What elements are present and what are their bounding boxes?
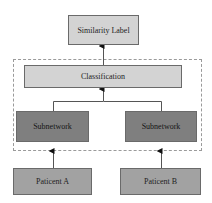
subnetwork-left-node: Subnetwork	[16, 111, 89, 142]
subnetwork-left-text: Subnetwork	[33, 122, 72, 131]
classification-node: Classification	[24, 65, 182, 88]
similarity-label-node: Similarity Label	[68, 15, 139, 45]
patient-b-node: Paticent B	[120, 168, 201, 195]
patient-a-text: Paticent A	[36, 177, 69, 186]
subnetwork-right-node: Subnetwork	[125, 111, 197, 142]
connector-left	[54, 102, 104, 112]
similarity-label-text: Similarity Label	[77, 26, 129, 35]
patient-a-node: Paticent A	[13, 168, 92, 195]
classification-text: Classification	[81, 72, 125, 81]
subnetwork-right-text: Subnetwork	[142, 122, 181, 131]
patient-b-text: Paticent B	[144, 177, 177, 186]
connector-right	[104, 102, 162, 112]
